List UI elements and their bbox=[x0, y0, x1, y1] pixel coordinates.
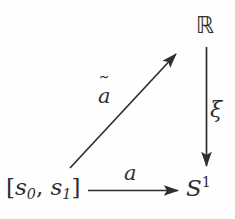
commutative-diagram: [s0, s1] ℝ S1 ˜a ξ a bbox=[0, 0, 235, 219]
base-map-arrow-label: a bbox=[124, 163, 137, 184]
circle-exponent: 1 bbox=[202, 174, 211, 190]
node-interval-domain: [s0, s1] bbox=[6, 176, 80, 199]
lift-arrow-label: ˜a bbox=[98, 86, 111, 107]
lift-arrow-line bbox=[70, 54, 176, 168]
domain-var-first: s bbox=[15, 174, 27, 200]
domain-var-second: s bbox=[51, 174, 63, 200]
circle-base: S bbox=[186, 175, 202, 201]
projection-arrow-label: ξ bbox=[210, 99, 222, 121]
bracket-open: [ bbox=[6, 174, 15, 200]
bracket-close: ] bbox=[71, 174, 80, 200]
node-real-line: ℝ bbox=[196, 14, 214, 37]
domain-sub-first: 0 bbox=[27, 186, 36, 202]
domain-comma: , bbox=[36, 174, 51, 200]
a-tilde-glyph: ˜a bbox=[98, 86, 111, 107]
node-circle: S1 bbox=[186, 177, 211, 200]
tilde-accent: ˜ bbox=[98, 75, 110, 93]
